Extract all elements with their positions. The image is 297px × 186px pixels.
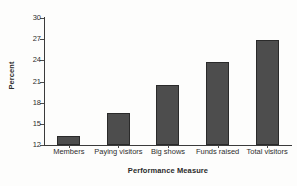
y-axis-tick-label: 21 xyxy=(33,78,41,86)
y-axis-title-text: Percent xyxy=(7,61,16,89)
bar[interactable] xyxy=(107,113,130,145)
y-axis-tick-label: 15 xyxy=(33,120,41,128)
x-axis-tick-label: Members xyxy=(44,148,94,156)
bar-slot xyxy=(44,18,94,145)
x-axis-tick-label: Big shows xyxy=(143,148,193,156)
x-axis-tick-label: Total visitors xyxy=(242,148,292,156)
bar-slot xyxy=(242,18,292,145)
bar[interactable] xyxy=(57,136,80,145)
y-axis-tick-label: 30 xyxy=(33,14,41,22)
x-axis-tick-label: Paying visitors xyxy=(94,148,144,156)
bar[interactable] xyxy=(256,40,279,145)
bar-chart-figure: Percent 12151821242730 MembersPaying vis… xyxy=(0,0,297,186)
bar[interactable] xyxy=(156,85,179,145)
x-axis-title: Performance Measure xyxy=(44,166,292,175)
plot-area: 12151821242730 xyxy=(44,18,292,145)
y-axis-tick-label: 12 xyxy=(33,141,41,149)
x-axis-tick-labels: MembersPaying visitorsBig showsFunds rai… xyxy=(44,148,292,156)
y-axis-title: Percent xyxy=(2,0,20,150)
bar-slot xyxy=(94,18,144,145)
bar-series xyxy=(44,18,292,145)
y-axis-tick-label: 18 xyxy=(33,99,41,107)
bar[interactable] xyxy=(206,62,229,145)
y-axis-tick-label: 24 xyxy=(33,57,41,65)
bar-slot xyxy=(193,18,243,145)
bar-slot xyxy=(143,18,193,145)
x-axis-tick-label: Funds raised xyxy=(193,148,243,156)
y-axis-tick-label: 27 xyxy=(33,35,41,43)
